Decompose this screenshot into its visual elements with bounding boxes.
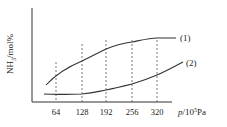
series-1-label: (1) — [180, 33, 191, 43]
x-tick-label: 256 — [126, 107, 139, 117]
x-axis-label-tail: Pa — [197, 107, 206, 117]
y-axis-label-rest: /mol% — [5, 34, 15, 58]
x-axis-label: p/105Pa — [177, 107, 206, 117]
y-axis-label-container: NH3/mol% — [4, 14, 18, 94]
chart: (1) (2) 64 128 192 256 320 p/105Pa NH3/m… — [0, 0, 227, 127]
chart-svg: (1) (2) 64 128 192 256 320 p/105Pa — [0, 0, 227, 127]
y-axis-label: NH3/mol% — [5, 34, 17, 74]
x-tick-label: 192 — [100, 107, 113, 117]
x-axis-label-unit: /10 — [183, 107, 195, 117]
x-tick-labels: 64 128 192 256 320 — [52, 107, 164, 117]
y-axis-label-sub: 3 — [11, 58, 17, 61]
x-tick-label: 320 — [151, 107, 164, 117]
y-axis-label-base: NH — [5, 61, 15, 74]
series-2-curve — [44, 62, 183, 94]
series-2-label: (2) — [186, 58, 197, 68]
series-1-curve — [46, 38, 176, 85]
x-tick-label: 128 — [76, 107, 89, 117]
x-tick-label: 64 — [52, 107, 61, 117]
